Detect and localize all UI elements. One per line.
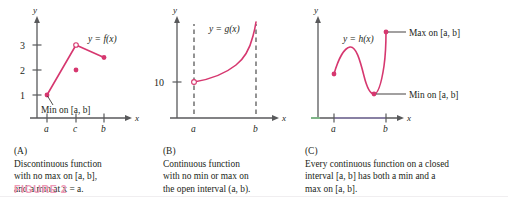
y-tick-10-label: 10 — [154, 77, 164, 88]
y-tick-2-label: 2 — [20, 65, 25, 76]
function-h-label: y = h(x) — [342, 34, 374, 45]
x-axis-label: x — [281, 113, 286, 123]
panel-a-discontinuous-function: y x 1 2 3 a c b Min on [a, b — [0, 0, 160, 132]
panel-c-extreme-value-theorem: y x a b Max on [a, b] Min on [a, b] y = … — [300, 0, 508, 132]
x-tick-a-label: a — [331, 124, 336, 132]
x-tick-b-label: b — [101, 124, 106, 132]
point-open-at-a — [192, 80, 197, 85]
panel-c-plot: y x a b Max on [a, b] Min on [a, b] y = … — [300, 0, 508, 132]
min-annotation-label: Min on [a, b] — [409, 90, 458, 100]
caption-b-text: Continuous function with no min or max o… — [163, 159, 250, 194]
y-axis-arrow — [34, 16, 40, 23]
x-axis-arrow — [125, 115, 132, 121]
y-tick-3-label: 3 — [20, 40, 25, 51]
max-annotation-label: Max on [a, b] — [409, 28, 460, 38]
point-open-at-c — [74, 43, 79, 48]
x-tick-a-label: a — [44, 124, 49, 132]
y-axis-label: y — [32, 5, 37, 15]
point-min-on-ab — [372, 92, 377, 97]
figure-number-label: FIGURE 2 — [14, 183, 67, 195]
point-left-endpoint-a — [332, 72, 337, 77]
caption-b-label: (B) — [163, 146, 176, 156]
point-min-at-a — [45, 93, 50, 98]
caption-a-label: (A) — [14, 146, 27, 156]
panel-a-plot: y x 1 2 3 a c b Min on [a, b — [0, 0, 160, 132]
x-tick-b-label: b — [253, 124, 258, 132]
x-tick-c-label: c — [73, 124, 78, 132]
min-leader-line — [48, 96, 54, 105]
x-axis-arrow — [272, 115, 279, 121]
caption-panel-c: (C) Every continuous function on a close… — [305, 133, 508, 195]
bottom-divider — [0, 196, 508, 197]
caption-panel-b: (B) Continuous function with no min or m… — [163, 133, 307, 195]
panel-b-continuous-function: y x 10 a b y = g(x) — [152, 0, 302, 132]
function-g-label: y = g(x) — [208, 24, 240, 35]
x-tick-b-label: b — [383, 124, 388, 132]
point-max-on-ab — [384, 30, 389, 35]
x-axis-arrow — [397, 115, 404, 121]
point-value-at-c — [74, 68, 79, 73]
y-axis-arrow — [174, 16, 180, 23]
panel-b-plot: y x 10 a b y = g(x) — [152, 0, 302, 132]
figure-2-container: y x 1 2 3 a c b Min on [a, b — [0, 0, 508, 205]
min-annotation-label: Min on [a, b] — [41, 105, 90, 115]
x-axis-label: x — [406, 113, 411, 123]
x-axis-label: x — [134, 113, 139, 123]
x-tick-a-label: a — [191, 124, 196, 132]
caption-c-text: Every continuous function on a closed in… — [305, 159, 449, 194]
y-tick-1-label: 1 — [20, 90, 25, 101]
y-axis-label: y — [313, 5, 318, 15]
y-axis-label: y — [172, 5, 177, 15]
point-at-b — [102, 55, 107, 60]
y-axis-arrow — [315, 16, 321, 23]
caption-c-label: (C) — [305, 146, 318, 156]
function-f-label: y = f(x) — [87, 34, 117, 45]
